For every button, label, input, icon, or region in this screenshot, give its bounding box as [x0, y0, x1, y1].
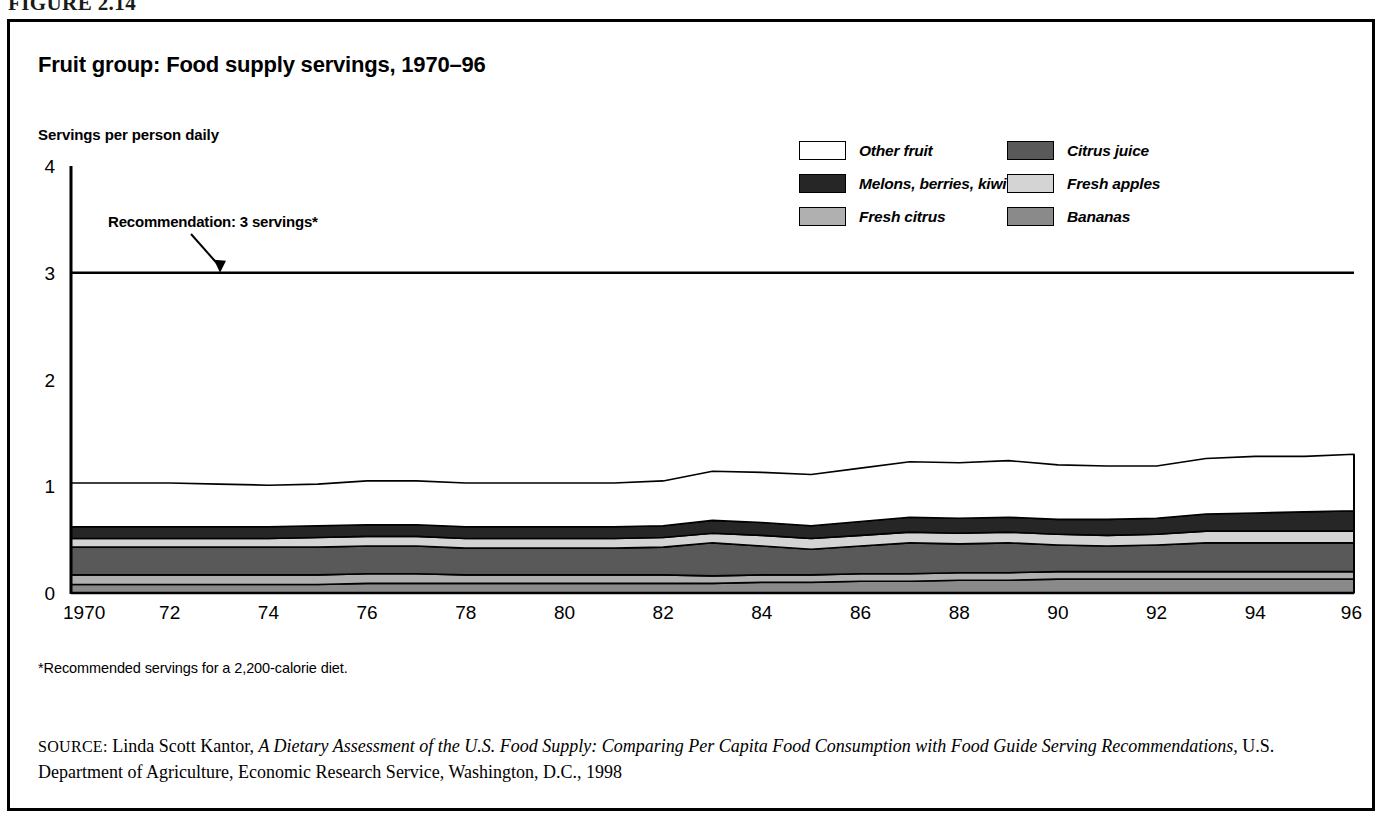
chart-legend: Other fruit Citrus juice Melons, berries…	[799, 134, 1219, 233]
svg-text:3: 3	[44, 263, 55, 284]
svg-text:94: 94	[1245, 602, 1267, 623]
legend-swatch-fresh-citrus	[799, 207, 846, 226]
chart-title: Fruit group: Food supply servings, 1970–…	[38, 52, 486, 78]
legend-swatch-melons-berries-kiwi	[799, 174, 846, 193]
svg-text:80: 80	[554, 602, 575, 623]
svg-text:0: 0	[44, 583, 55, 604]
svg-text:78: 78	[455, 602, 476, 623]
source-author: Linda Scott Kantor,	[108, 736, 259, 756]
svg-text:74: 74	[258, 602, 280, 623]
svg-text:2: 2	[44, 370, 55, 391]
legend-label-melons-berries-kiwi: Melons, berries, kiwi	[859, 175, 1006, 193]
recommendation-annotation: Recommendation: 3 servings*	[108, 213, 318, 230]
legend-item-citrus-juice: Citrus juice	[1007, 134, 1207, 167]
source-title: A Dietary Assessment of the U.S. Food Su…	[258, 736, 1237, 756]
legend-label-other-fruit: Other fruit	[859, 142, 933, 160]
legend-swatch-other-fruit	[799, 141, 846, 160]
legend-label-fresh-citrus: Fresh citrus	[859, 208, 945, 226]
svg-text:92: 92	[1146, 602, 1167, 623]
source-label: SOURCE:	[38, 738, 108, 755]
source-citation: SOURCE: Linda Scott Kantor, A Dietary As…	[38, 734, 1338, 785]
svg-text:76: 76	[357, 602, 378, 623]
legend-swatch-bananas	[1007, 207, 1054, 226]
svg-text:90: 90	[1047, 602, 1068, 623]
svg-text:1970: 1970	[63, 602, 105, 623]
chart-footnote: *Recommended servings for a 2,200-calori…	[38, 660, 348, 676]
svg-text:84: 84	[751, 602, 773, 623]
legend-label-citrus-juice: Citrus juice	[1067, 142, 1149, 160]
legend-swatch-citrus-juice	[1007, 141, 1054, 160]
svg-text:4: 4	[44, 156, 55, 177]
legend-swatch-fresh-apples	[1007, 174, 1054, 193]
svg-text:88: 88	[949, 602, 970, 623]
svg-text:86: 86	[850, 602, 871, 623]
svg-text:1: 1	[44, 476, 55, 497]
legend-item-bananas: Bananas	[1007, 200, 1207, 233]
svg-text:96: 96	[1341, 602, 1362, 623]
legend-item-other-fruit: Other fruit	[799, 134, 999, 167]
svg-text:72: 72	[159, 602, 180, 623]
figure-number: FIGURE 2.14	[8, 0, 136, 16]
y-axis-caption: Servings per person daily	[38, 126, 219, 143]
legend-item-fresh-citrus: Fresh citrus	[799, 200, 999, 233]
legend-label-fresh-apples: Fresh apples	[1067, 175, 1160, 193]
figure-root: FIGURE 2.14 Fruit group: Food supply ser…	[0, 0, 1390, 825]
svg-text:82: 82	[653, 602, 674, 623]
legend-label-bananas: Bananas	[1067, 208, 1130, 226]
legend-item-fresh-apples: Fresh apples	[1007, 167, 1207, 200]
figure-panel: Fruit group: Food supply servings, 1970–…	[7, 19, 1375, 811]
legend-item-melons-berries-kiwi: Melons, berries, kiwi	[799, 167, 999, 200]
